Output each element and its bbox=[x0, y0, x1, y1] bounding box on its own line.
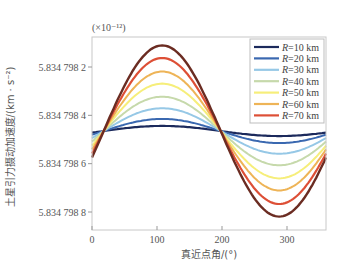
x-tick-label: 300 bbox=[280, 234, 295, 245]
legend-label: R=30 km bbox=[281, 64, 319, 75]
legend-label: R=60 km bbox=[281, 99, 319, 110]
legend: R=10 kmR=20 kmR=30 kmR=40 kmR=50 kmR=60 … bbox=[250, 39, 324, 123]
legend-label: R=10 km bbox=[281, 42, 319, 53]
x-tick-label: 0 bbox=[90, 234, 95, 245]
legend-label: R=50 km bbox=[281, 87, 319, 98]
y-tick-label: 5.834 798 4 bbox=[39, 110, 87, 121]
y-axis-title: 土星引力摄动加速度/(km · s⁻²) bbox=[4, 67, 16, 208]
legend-label: R=70 km bbox=[281, 110, 319, 121]
y-multiplier: (×10⁻¹²) bbox=[92, 22, 126, 34]
x-axis-title: 真近点角/(°) bbox=[181, 248, 237, 260]
y-tick-label: 5.834 798 8 bbox=[39, 207, 87, 218]
chart: (×10⁻¹²) 5.834 798 25.834 798 45.834 798… bbox=[0, 0, 346, 277]
x-tick-label: 200 bbox=[215, 234, 230, 245]
x-axis-ticks: 0100200300 bbox=[90, 226, 295, 245]
y-tick-label: 5.834 798 2 bbox=[39, 62, 87, 73]
y-tick-label: 5.834 798 6 bbox=[39, 158, 87, 169]
legend-label: R=40 km bbox=[281, 76, 319, 87]
legend-label: R=20 km bbox=[281, 53, 319, 64]
y-axis-ticks: 5.834 798 25.834 798 45.834 798 65.834 7… bbox=[39, 62, 93, 218]
x-tick-label: 100 bbox=[150, 234, 165, 245]
